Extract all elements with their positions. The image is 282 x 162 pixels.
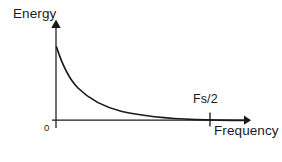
x-axis-label: Frequency (214, 124, 279, 138)
energy-frequency-figure: Energy Frequency Fs/2 0 (0, 0, 282, 162)
origin-label: 0 (44, 123, 49, 133)
y-axis-label: Energy (13, 7, 56, 21)
fs-half-tick-label: Fs/2 (193, 93, 218, 106)
energy-decay-curve (57, 47, 250, 120)
